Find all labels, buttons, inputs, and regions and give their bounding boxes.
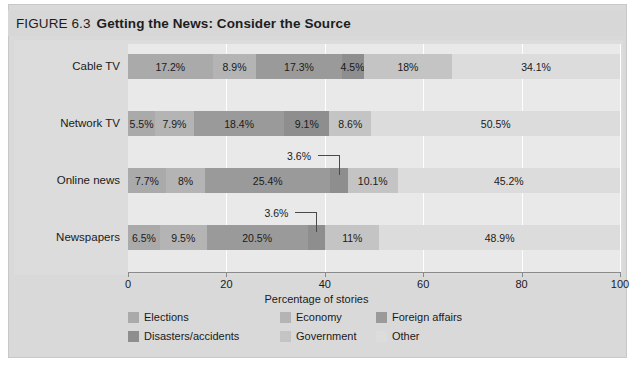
bar-segment[interactable]: 6.5% xyxy=(128,225,160,250)
x-axis-tick xyxy=(128,272,129,277)
bar-segment[interactable]: 4.5% xyxy=(342,54,364,79)
page-title: FIGURE 6.3Getting the News: Consider the… xyxy=(8,16,351,31)
bar-segment[interactable]: 10.1% xyxy=(348,168,398,193)
category-label-wrap: Online news xyxy=(0,174,120,194)
figure-title-bar: FIGURE 6.3Getting the News: Consider the… xyxy=(8,10,625,36)
x-axis-tick-label: 0 xyxy=(125,278,131,290)
legend-swatch xyxy=(376,331,387,342)
bar-segment[interactable]: 17.3% xyxy=(256,54,341,79)
bar-segment[interactable]: 34.1% xyxy=(452,54,620,79)
x-axis-tick-label: 60 xyxy=(417,278,429,290)
bar-segment[interactable]: 8.9% xyxy=(213,54,257,79)
figure-number: FIGURE 6.3 xyxy=(16,16,91,31)
callout-label: 3.6% xyxy=(264,207,288,219)
bar-segment[interactable]: 18% xyxy=(364,54,453,79)
bar-segment[interactable]: 7.9% xyxy=(155,111,194,136)
x-axis-tick xyxy=(423,272,424,277)
figure-title: Getting the News: Consider the Source xyxy=(97,16,351,31)
legend-swatch xyxy=(128,312,139,323)
legend-label: Economy xyxy=(296,311,342,323)
bar-segment[interactable]: 8% xyxy=(166,168,205,193)
legend-item[interactable]: Elections xyxy=(128,311,189,323)
legend-label: Disasters/accidents xyxy=(144,330,239,342)
x-axis-tick xyxy=(620,272,621,277)
callout-leader-horizontal xyxy=(295,212,316,213)
bar-row[interactable]: 6.5%9.5%20.5%11%48.9% xyxy=(128,225,620,250)
bar-segment[interactable]: 25.4% xyxy=(205,168,330,193)
category-label-wrap: Network TV xyxy=(0,117,120,137)
x-axis-tick xyxy=(522,272,523,277)
bar-segment[interactable]: 48.9% xyxy=(379,225,620,250)
x-axis-tick-label: 100 xyxy=(611,278,629,290)
bar-segment[interactable]: 50.5% xyxy=(371,111,619,136)
legend-swatch xyxy=(128,331,139,342)
x-axis-line xyxy=(128,272,620,273)
x-axis-tick-label: 80 xyxy=(515,278,527,290)
x-axis-tick xyxy=(226,272,227,277)
bar-segment[interactable]: 5.5% xyxy=(128,111,155,136)
category-label-wrap: Cable TV xyxy=(0,60,120,80)
x-axis-tick xyxy=(325,272,326,277)
category-label: Cable TV xyxy=(72,60,120,72)
category-label-wrap: Newspapers xyxy=(0,231,120,251)
figure-container: FIGURE 6.3Getting the News: Consider the… xyxy=(0,0,633,365)
bar-segment[interactable]: 20.5% xyxy=(207,225,308,250)
callout-label: 3.6% xyxy=(287,150,311,162)
legend-label: Foreign affairs xyxy=(392,311,462,323)
bar-row[interactable]: 17.2%8.9%17.3%4.5%18%34.1% xyxy=(128,54,620,79)
category-label: Online news xyxy=(57,174,120,186)
bar-segment[interactable]: 8.6% xyxy=(329,111,371,136)
legend-item[interactable]: Other xyxy=(376,330,420,342)
bar-segment[interactable]: 9.5% xyxy=(160,225,207,250)
legend-label: Government xyxy=(296,330,357,342)
legend-item[interactable]: Foreign affairs xyxy=(376,311,462,323)
bar-segment[interactable]: 7.7% xyxy=(128,168,166,193)
legend-item[interactable]: Government xyxy=(280,330,357,342)
bar-segment[interactable]: 9.1% xyxy=(284,111,329,136)
bar-row[interactable]: 7.7%8%25.4%10.1%45.2% xyxy=(128,168,620,193)
bar-segment[interactable]: 11% xyxy=(325,225,379,250)
callout-leader-vertical xyxy=(339,155,340,175)
x-axis-tick-label: 20 xyxy=(220,278,232,290)
bar-segment[interactable]: 17.2% xyxy=(128,54,213,79)
legend-item[interactable]: Economy xyxy=(280,311,342,323)
legend-swatch xyxy=(280,312,291,323)
x-axis-title: Percentage of stories xyxy=(0,293,633,305)
x-axis-tick-label: 40 xyxy=(319,278,331,290)
gridline xyxy=(620,44,621,272)
legend-swatch xyxy=(376,312,387,323)
category-label: Network TV xyxy=(60,117,120,129)
callout-leader-horizontal xyxy=(318,155,339,156)
legend-label: Other xyxy=(392,330,420,342)
legend-swatch xyxy=(280,331,291,342)
chart-legend: ElectionsEconomyForeign affairsDisasters… xyxy=(128,311,548,351)
legend-item[interactable]: Disasters/accidents xyxy=(128,330,239,342)
legend-label: Elections xyxy=(144,311,189,323)
bar-row[interactable]: 5.5%7.9%18.4%9.1%8.6%50.5% xyxy=(128,111,620,136)
category-label: Newspapers xyxy=(56,231,120,243)
bar-segment[interactable]: 18.4% xyxy=(194,111,285,136)
callout-leader-vertical xyxy=(316,212,317,232)
bar-segment[interactable]: 45.2% xyxy=(398,168,620,193)
